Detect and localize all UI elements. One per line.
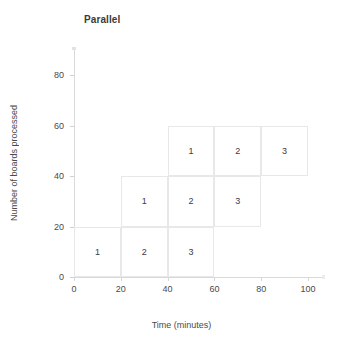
x-axis-title: Time (minutes) [0, 320, 363, 330]
y-tick-label: 0 [59, 272, 64, 282]
x-axis-line [74, 277, 324, 278]
x-tick-label: 60 [209, 284, 219, 294]
x-tick-mark [214, 277, 215, 281]
plot-area: 020406080 020406080100 123123123 [74, 48, 324, 277]
data-cell: 1 [168, 126, 215, 177]
data-cell: 3 [168, 227, 215, 278]
y-tick-label: 40 [54, 171, 64, 181]
x-tick-label: 0 [71, 284, 76, 294]
data-cell: 3 [214, 176, 261, 227]
y-tick-label: 20 [54, 222, 64, 232]
y-tick-label: 80 [54, 70, 64, 80]
x-tick-label: 40 [163, 284, 173, 294]
x-tick-mark [261, 277, 262, 281]
data-cell: 2 [121, 227, 168, 278]
x-tick-label: 80 [256, 284, 266, 294]
data-cell: 1 [74, 227, 121, 278]
y-tick-mark: 60 [70, 126, 74, 127]
data-cell: 2 [214, 126, 261, 177]
x-tick-label: 20 [116, 284, 126, 294]
y-tick-mark: 80 [70, 75, 74, 76]
x-tick-mark [308, 277, 309, 281]
y-tick-mark: 40 [70, 176, 74, 177]
data-cell: 2 [168, 176, 215, 227]
x-tick-mark [168, 277, 169, 281]
x-axis-arrow-icon [322, 275, 325, 279]
y-tick-label: 60 [54, 121, 64, 131]
data-cell: 1 [121, 176, 168, 227]
chart-page: Parallel Number of boards processed Time… [0, 0, 363, 351]
y-axis-title: Number of boards processed [6, 88, 22, 238]
y-axis-arrow-icon [72, 47, 76, 50]
x-tick-mark [121, 277, 122, 281]
data-cell: 3 [261, 126, 308, 177]
x-tick-mark [74, 277, 75, 281]
chart-title: Parallel [84, 14, 120, 25]
x-tick-label: 100 [300, 284, 315, 294]
